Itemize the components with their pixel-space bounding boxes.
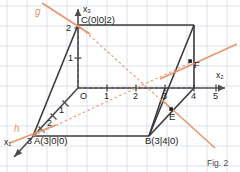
line-label-g: g (35, 6, 41, 17)
axis-x3-tick-2: 2 (66, 23, 71, 33)
figure-caption: Fig. 2 (207, 158, 229, 168)
axis-x3-tick-1: 1 (68, 53, 73, 63)
axis-x1-label: x₁ (4, 137, 11, 147)
figure-2-diagram: x₃ x₂ x₁ 2 1 O 1 2 3 4 5 1 2 3 C(0|0|2) … (0, 0, 240, 172)
coordinate-system-svg: x₃ x₂ x₁ 2 1 O 1 2 3 4 5 1 2 3 C(0|0|2) … (0, 0, 240, 172)
axis-x1-tick-1: 1 (59, 105, 64, 115)
axis-x3-label: x₃ (83, 4, 91, 14)
axis-x2-tick-4: 4 (191, 91, 196, 101)
point-label-E: E (169, 111, 175, 122)
axis-x2-label: x₂ (216, 70, 224, 80)
axis-x1-tick-2: 2 (47, 118, 52, 128)
point-label-A: A(3|0|0) (34, 135, 67, 146)
axis-x2-tick-5: 5 (213, 91, 218, 101)
axis-x2-tick-3: 3 (162, 91, 167, 101)
line-label-h: h (14, 123, 20, 134)
point-label-C: C(0|0|2) (81, 14, 115, 25)
axis-x1-tick-3: 3 (27, 136, 32, 146)
point-label-F: F (194, 59, 200, 70)
axis-x2-tick-1: 1 (104, 91, 109, 101)
origin-label: O (80, 91, 87, 101)
point-label-B: B(3|4|0) (145, 135, 178, 146)
point-marker-F (188, 59, 192, 63)
axis-x2-tick-2: 2 (133, 91, 138, 101)
